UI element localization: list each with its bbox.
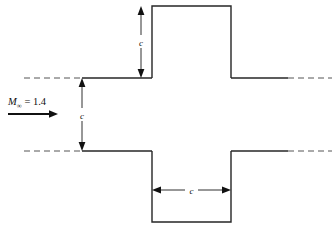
figure-root: M∞ = 1.4 c c c [0,0,335,227]
upper-square-cavity [152,6,231,78]
upper-dim-arrowhead-bottom [138,69,145,78]
channel-dim-arrowhead-top [79,78,86,87]
channel-height-label: c [80,111,84,121]
lower-dim-arrowhead-right [222,187,231,194]
lower-cavity-width-label: c [190,186,194,196]
mach-equals: = [22,96,33,107]
freestream-flow-arrow [8,110,58,118]
channel-height-dimension: c [76,78,88,151]
lower-cavity-width-dimension: c [152,183,231,196]
lower-dim-arrowhead-left [152,187,161,194]
flow-arrow-head [49,110,58,118]
mach-number-label: M∞ = 1.4 [7,96,47,110]
upper-cavity-height-dimension: c [135,6,147,78]
upper-cavity-height-label: c [139,38,143,48]
channel-dim-arrowhead-bottom [79,142,86,151]
upper-dim-arrowhead-top [138,6,145,15]
channel-cavity-diagram: M∞ = 1.4 c c c [0,0,335,227]
mach-value: 1.4 [33,96,47,107]
